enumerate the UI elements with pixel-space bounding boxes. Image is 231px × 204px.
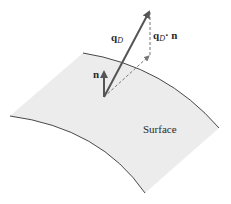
surface-label: Surface [143, 124, 177, 135]
projection-label: qD· n [153, 30, 177, 41]
q-d-label: qD [111, 32, 123, 43]
flux-diagram: qD qD· n n Surface [0, 0, 231, 204]
n-label: n [93, 69, 99, 80]
surface-patch [10, 53, 219, 193]
